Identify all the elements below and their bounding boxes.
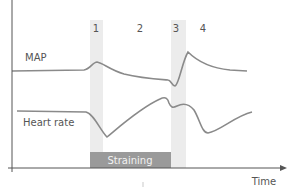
phase-label-4: 4 <box>200 23 206 34</box>
map-label: MAP <box>25 52 47 63</box>
heart-rate-label: Heart rate <box>23 117 74 128</box>
x-axis-label: Time <box>251 176 276 187</box>
phase-3-band <box>171 20 186 168</box>
x-axis-arrow-icon <box>280 165 287 171</box>
straining-label: Straining <box>107 155 152 166</box>
phase-label-2: 2 <box>137 23 143 34</box>
valsalva-diagram: 1 2 3 4 MAP Heart rate Straining Time <box>0 0 295 190</box>
phase-label-3: 3 <box>173 23 179 34</box>
phase-label-1: 1 <box>93 23 99 34</box>
phase-1-band <box>90 20 103 168</box>
map-curve <box>12 52 247 86</box>
